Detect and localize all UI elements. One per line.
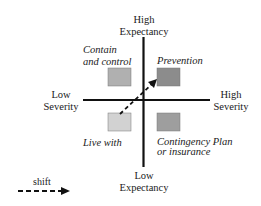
bottom-axis-label: Low Expectancy xyxy=(113,170,175,194)
left-axis-label: Low Severity xyxy=(38,89,84,113)
contingency-label: Contingency Plan or insurance xyxy=(157,137,233,157)
top-axis-label: High Expectancy xyxy=(113,14,175,38)
live-with-box xyxy=(108,113,131,131)
legend-label: shift xyxy=(33,176,51,188)
left-label-line1: Low xyxy=(38,89,84,101)
right-axis-label: High Severity xyxy=(208,89,254,113)
contingency-line2: or insurance xyxy=(157,147,233,157)
top-label-line2: Expectancy xyxy=(113,26,175,38)
shift-arrow xyxy=(120,83,153,114)
left-label-line2: Severity xyxy=(38,101,84,113)
contain-line2: and control xyxy=(83,56,131,68)
contain-label: Contain and control xyxy=(83,44,131,68)
contingency-box xyxy=(157,113,180,131)
live-with-label: Live with xyxy=(83,137,122,149)
live-with-line1: Live with xyxy=(83,137,122,149)
right-label-line1: High xyxy=(208,89,254,101)
bottom-label-line1: Low xyxy=(113,170,175,182)
shift-arrow-head xyxy=(148,79,157,88)
prevention-line1: Prevention xyxy=(157,55,203,67)
top-label-line1: High xyxy=(113,14,175,26)
contain-box xyxy=(108,68,131,86)
legend-arrow-head xyxy=(61,187,70,195)
bottom-label-line2: Expectancy xyxy=(113,182,175,194)
prevention-box xyxy=(157,68,180,86)
contain-line1: Contain xyxy=(83,44,131,56)
right-label-line2: Severity xyxy=(208,101,254,113)
prevention-label: Prevention xyxy=(157,55,203,67)
